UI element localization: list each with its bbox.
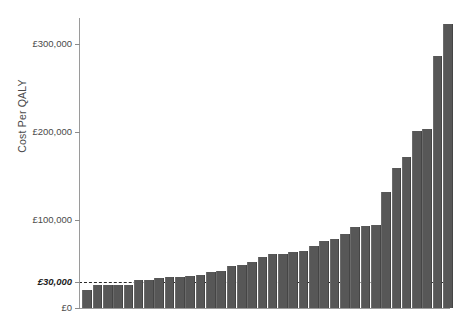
x-axis-caption bbox=[130, 313, 140, 327]
x-axis-caption bbox=[161, 313, 171, 327]
x-axis-caption bbox=[429, 313, 439, 327]
bar bbox=[361, 226, 371, 308]
x-axis-caption bbox=[172, 313, 182, 327]
x-axis-caption bbox=[244, 313, 254, 327]
x-axis-caption bbox=[89, 313, 99, 327]
x-axis-caption bbox=[378, 313, 388, 327]
bar bbox=[175, 277, 185, 308]
y-tick-label: £0 bbox=[61, 302, 72, 313]
bar bbox=[113, 285, 123, 308]
bar bbox=[185, 276, 195, 308]
bar bbox=[319, 241, 329, 308]
x-axis-caption-row bbox=[79, 313, 450, 327]
x-axis-caption bbox=[285, 313, 295, 327]
x-axis-caption bbox=[326, 313, 336, 327]
bar bbox=[144, 280, 154, 308]
x-axis-caption bbox=[100, 313, 110, 327]
bar bbox=[433, 56, 443, 308]
bar bbox=[330, 239, 340, 308]
bar bbox=[196, 275, 206, 308]
x-axis-caption bbox=[316, 313, 326, 327]
bar bbox=[443, 24, 453, 308]
bar bbox=[299, 251, 309, 308]
x-axis-caption bbox=[182, 313, 192, 327]
y-tick-label: £100,000 bbox=[32, 214, 72, 225]
x-axis-caption bbox=[275, 313, 285, 327]
bar bbox=[309, 246, 319, 308]
bar bbox=[402, 157, 412, 308]
bar bbox=[206, 272, 216, 308]
x-axis-caption bbox=[295, 313, 305, 327]
plot-area bbox=[79, 18, 450, 309]
bar bbox=[278, 254, 288, 308]
bar bbox=[258, 257, 268, 308]
bar bbox=[247, 262, 257, 308]
x-axis-caption bbox=[151, 313, 161, 327]
bar bbox=[371, 225, 381, 308]
x-axis-caption bbox=[439, 313, 449, 327]
bar bbox=[422, 129, 432, 308]
cost-per-qaly-bar-chart: Cost Per QALY £0£30,000£100,000£200,000£… bbox=[0, 0, 455, 327]
bar bbox=[124, 285, 134, 308]
bar bbox=[165, 277, 175, 308]
x-axis-caption bbox=[306, 313, 316, 327]
bar bbox=[227, 266, 237, 308]
y-tick-mark bbox=[75, 308, 80, 309]
y-tick-mark bbox=[75, 220, 80, 221]
bar bbox=[237, 265, 247, 308]
x-axis-caption bbox=[357, 313, 367, 327]
x-axis-caption bbox=[409, 313, 419, 327]
y-tick-mark bbox=[75, 132, 80, 133]
x-axis-caption bbox=[398, 313, 408, 327]
x-axis-caption bbox=[141, 313, 151, 327]
bar bbox=[340, 234, 350, 308]
x-axis-caption bbox=[367, 313, 377, 327]
bar bbox=[288, 252, 298, 308]
x-axis-caption bbox=[419, 313, 429, 327]
bar bbox=[93, 285, 103, 308]
y-tick-label: £30,000 bbox=[38, 276, 72, 287]
bar bbox=[268, 254, 278, 308]
bar bbox=[134, 280, 144, 308]
y-tick-mark bbox=[75, 44, 80, 45]
x-axis-caption bbox=[388, 313, 398, 327]
bar bbox=[216, 271, 226, 308]
y-tick-label: £200,000 bbox=[32, 126, 72, 137]
bar-series bbox=[79, 18, 450, 309]
bar bbox=[154, 278, 164, 308]
x-axis-caption bbox=[192, 313, 202, 327]
x-axis-caption bbox=[203, 313, 213, 327]
bar bbox=[392, 168, 402, 308]
x-axis-caption bbox=[213, 313, 223, 327]
y-axis-title: Cost Per QALY bbox=[16, 56, 28, 176]
x-axis-caption bbox=[120, 313, 130, 327]
x-axis-caption bbox=[110, 313, 120, 327]
x-axis-caption bbox=[254, 313, 264, 327]
bar bbox=[103, 285, 113, 308]
y-tick-label: £300,000 bbox=[32, 38, 72, 49]
y-tick-mark bbox=[75, 282, 80, 283]
x-axis-caption bbox=[264, 313, 274, 327]
bar bbox=[381, 192, 391, 308]
bar bbox=[82, 290, 92, 308]
x-axis-caption bbox=[223, 313, 233, 327]
x-axis-caption bbox=[336, 313, 346, 327]
x-axis-caption bbox=[233, 313, 243, 327]
x-axis-caption bbox=[347, 313, 357, 327]
bar bbox=[412, 131, 422, 308]
bar bbox=[350, 227, 360, 308]
x-axis-caption bbox=[79, 313, 89, 327]
